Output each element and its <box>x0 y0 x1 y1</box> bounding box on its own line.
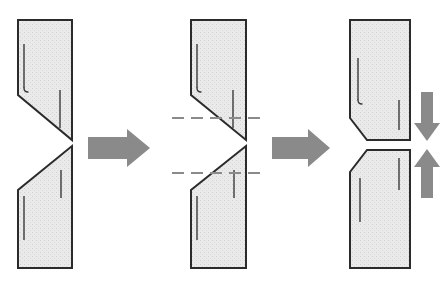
diagram-canvas <box>0 0 448 287</box>
upper-workpiece <box>350 20 410 140</box>
panel-3-upper-part <box>350 20 410 140</box>
diagram-svg <box>0 0 448 287</box>
lower-workpiece <box>350 150 410 268</box>
panel-3-lower-part <box>350 150 410 268</box>
